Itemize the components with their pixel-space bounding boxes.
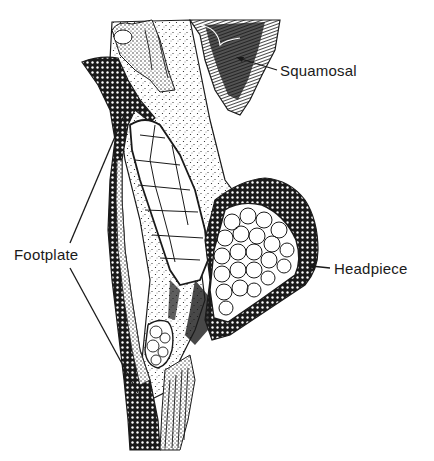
squamosal-label: Squamosal [280,62,357,79]
headpiece-label: Headpiece [334,260,408,277]
footplate-label: Footplate [14,246,78,263]
anatomical-diagram [0,0,434,461]
